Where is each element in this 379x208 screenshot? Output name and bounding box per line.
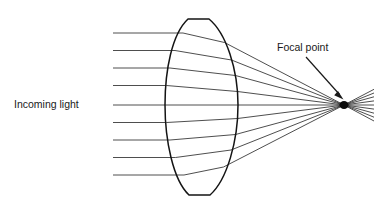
incoming-light-label: Incoming light bbox=[14, 98, 79, 110]
focal-point-label: Focal point bbox=[277, 41, 328, 53]
lens-diagram-figure: Incoming light Focal point bbox=[0, 0, 379, 208]
optics-diagram-canvas: Incoming light Focal point bbox=[0, 0, 379, 208]
focal-point-dot bbox=[339, 101, 348, 109]
